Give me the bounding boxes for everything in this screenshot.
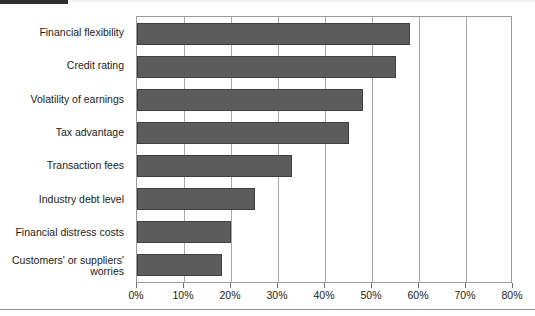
category-label-row: Transaction fees (0, 155, 130, 177)
category-label: Volatility of earnings (31, 94, 124, 106)
bar-row (137, 221, 511, 243)
bar[interactable] (137, 23, 410, 45)
category-label: Credit rating (67, 60, 124, 72)
x-tick-label: 30% (266, 289, 287, 301)
bar-row (137, 56, 511, 78)
bar-rows (137, 17, 511, 282)
bar-row (137, 188, 511, 210)
x-tick-40 (324, 283, 325, 288)
x-tick-60 (418, 283, 419, 288)
plot-area (136, 16, 512, 283)
bar[interactable] (137, 254, 222, 276)
bar-row (137, 23, 511, 45)
category-label-row: Financial distress costs (0, 222, 130, 244)
category-label: Customers' or suppliers' worries (12, 255, 124, 278)
bar-row (137, 89, 511, 111)
category-label: Financial flexibility (39, 27, 124, 39)
category-label: Tax advantage (56, 127, 124, 139)
category-label-row: Tax advantage (0, 122, 130, 144)
category-axis-labels: Financial flexibilityCredit ratingVolati… (0, 16, 130, 283)
category-label-row: Financial flexibility (0, 22, 130, 44)
category-label-row: Customers' or suppliers' worries (0, 255, 130, 277)
x-tick-80 (512, 283, 513, 288)
bar[interactable] (137, 188, 255, 210)
x-tick-30 (277, 283, 278, 288)
bar-row (137, 254, 511, 276)
category-label-row: Industry debt level (0, 189, 130, 211)
bar-row (137, 122, 511, 144)
x-tick-label: 20% (219, 289, 240, 301)
x-tick-10 (183, 283, 184, 288)
bar[interactable] (137, 56, 396, 78)
x-tick-label: 50% (360, 289, 381, 301)
x-tick-label: 10% (172, 289, 193, 301)
x-tick-70 (465, 283, 466, 288)
x-tick-label: 0% (128, 289, 143, 301)
category-label: Financial distress costs (15, 227, 124, 239)
bar-row (137, 155, 511, 177)
bar[interactable] (137, 221, 231, 243)
x-tick-label: 40% (313, 289, 334, 301)
x-tick-label: 70% (454, 289, 475, 301)
bar[interactable] (137, 89, 363, 111)
bar[interactable] (137, 122, 349, 144)
category-label: Industry debt level (39, 194, 124, 206)
chart-page: Financial flexibilityCredit ratingVolati… (0, 0, 535, 316)
x-tick-0 (136, 283, 137, 288)
x-tick-20 (230, 283, 231, 288)
horizontal-bar-chart: Financial flexibilityCredit ratingVolati… (0, 0, 535, 316)
page-bottom-rule (0, 309, 535, 310)
category-label: Transaction fees (47, 160, 124, 172)
x-tick-label: 80% (501, 289, 522, 301)
category-label-row: Credit rating (0, 55, 130, 77)
x-tick-50 (371, 283, 372, 288)
x-tick-label: 60% (407, 289, 428, 301)
category-label-row: Volatility of earnings (0, 88, 130, 110)
x-axis-tick-labels: 0%10%20%30%40%50%60%70%80% (0, 289, 535, 305)
bar[interactable] (137, 155, 292, 177)
